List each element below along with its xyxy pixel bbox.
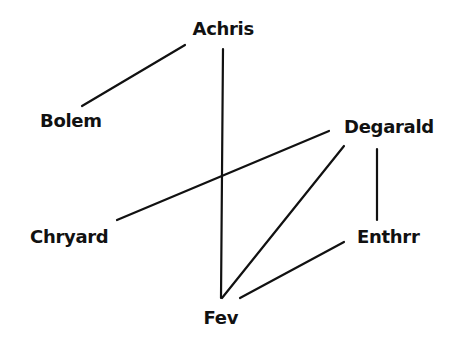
edge-achris-fev [221, 49, 223, 298]
edge-achris-bolem [82, 45, 185, 106]
node-achris: Achris [193, 19, 254, 39]
graph-diagram: Achris Bolem Degarald Chryard Enthrr Fev [0, 0, 452, 347]
node-degarald: Degarald [344, 117, 434, 137]
edges-layer [0, 0, 452, 347]
node-bolem: Bolem [40, 111, 102, 131]
edge-enthrr-fev [240, 242, 344, 298]
node-chryard: Chryard [30, 227, 108, 247]
node-fev: Fev [204, 308, 239, 328]
node-enthrr: Enthrr [357, 227, 419, 247]
